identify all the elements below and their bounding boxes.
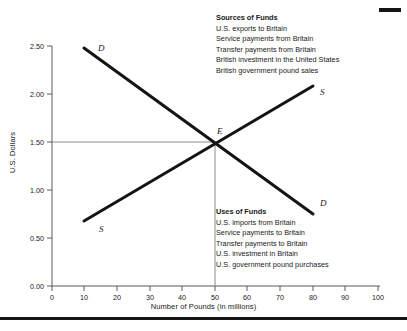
figure-page: 2.50 2.00 1.50 1.00 0.50 0.00: [0, 0, 407, 331]
x-tick-label: 70: [276, 293, 284, 302]
y-tick-label: 1.50: [30, 138, 44, 147]
supply-curve: [84, 86, 313, 221]
sources-of-funds-item: U.S. exports to Britain: [216, 24, 339, 35]
x-tick-label: 40: [178, 293, 186, 302]
x-tick-label: 30: [146, 293, 154, 302]
x-tick-labels: 0 10 20 30 40 50 60 70 80 90 100: [50, 293, 384, 302]
y-tick-label: 1.00: [30, 186, 44, 195]
uses-of-funds-item: Transfer payments to Britain: [216, 239, 329, 250]
sources-of-funds-item: British government pound sales: [216, 66, 339, 77]
uses-of-funds-item: U.S. investment in Britain: [216, 249, 329, 260]
uses-of-funds-item: Service payments to Britain: [216, 228, 329, 239]
x-axis-title: Number of Pounds (in millions): [0, 302, 407, 311]
x-tick-label: 10: [80, 293, 88, 302]
sources-of-funds-note: Sources of Funds U.S. exports to Britain…: [216, 13, 339, 77]
sources-of-funds-item: British investment in the United States: [216, 55, 339, 66]
y-tick-label: 0.00: [30, 282, 44, 291]
demand-curve-label-left: D: [97, 43, 105, 53]
x-tick-label: 0: [50, 293, 54, 302]
sources-of-funds-title: Sources of Funds: [216, 13, 339, 24]
x-tick-label: 90: [341, 293, 349, 302]
x-tick-marks: [52, 286, 378, 291]
uses-of-funds-title: Uses of Funds: [216, 207, 329, 218]
y-axis-title: U.S. Dollars: [8, 113, 17, 193]
x-tick-label: 60: [243, 293, 251, 302]
uses-of-funds-note: Uses of Funds U.S. imports from Britain …: [216, 207, 329, 271]
x-tick-label: 20: [113, 293, 121, 302]
sources-of-funds-item: Transfer payments from Britain: [216, 45, 339, 56]
equilibrium-point-label: E: [216, 126, 223, 136]
uses-of-funds-item: U.S. imports from Britain: [216, 218, 329, 229]
bottom-rule-divider: [0, 317, 407, 320]
exchange-rate-chart: 2.50 2.00 1.50 1.00 0.50 0.00: [0, 0, 407, 317]
y-tick-label: 0.50: [30, 234, 44, 243]
sources-of-funds-item: Service payments from Britain: [216, 34, 339, 45]
y-tick-labels: 2.50 2.00 1.50 1.00 0.50 0.00: [30, 42, 44, 291]
chart-canvas: 2.50 2.00 1.50 1.00 0.50 0.00: [0, 0, 407, 317]
y-tick-label: 2.50: [30, 42, 44, 51]
y-tick-marks: [47, 46, 52, 286]
supply-curve-label-right: S: [320, 87, 325, 97]
x-tick-label: 50: [211, 293, 219, 302]
x-tick-label: 100: [372, 293, 384, 302]
uses-of-funds-item: U.S. government pound purchases: [216, 260, 329, 271]
x-tick-label: 80: [309, 293, 317, 302]
supply-curve-label-left: S: [99, 224, 104, 234]
y-tick-label: 2.00: [30, 90, 44, 99]
